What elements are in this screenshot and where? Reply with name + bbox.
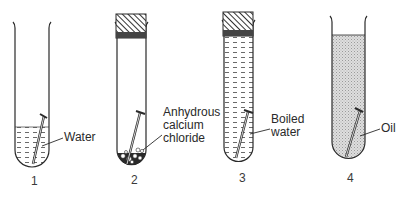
tube-number-3: 3: [239, 171, 246, 185]
label-line: water: [271, 126, 304, 139]
stopper-base: [223, 30, 253, 36]
stopper-base: [116, 32, 146, 38]
boiled-water-fill: [224, 37, 253, 162]
tube-number-2: 2: [131, 173, 138, 187]
tube-number-4: 4: [347, 171, 354, 185]
label-oil: Oil: [381, 122, 396, 135]
tube-number-1: 1: [31, 174, 38, 188]
label-boiled-water: Boiled water: [271, 113, 304, 139]
test-tube-2: [115, 14, 162, 165]
water-fill: [15, 127, 49, 167]
diagram-canvas: [0, 0, 406, 197]
test-tube-3: [222, 12, 270, 162]
test-tube-4: [330, 16, 380, 159]
oil-fill: [332, 35, 365, 159]
label-water: Water: [64, 131, 96, 144]
label-calcium-chloride: Anhydrous calcium chloride: [163, 106, 220, 145]
label-line: chloride: [163, 132, 220, 145]
test-tube-1: [13, 22, 63, 167]
